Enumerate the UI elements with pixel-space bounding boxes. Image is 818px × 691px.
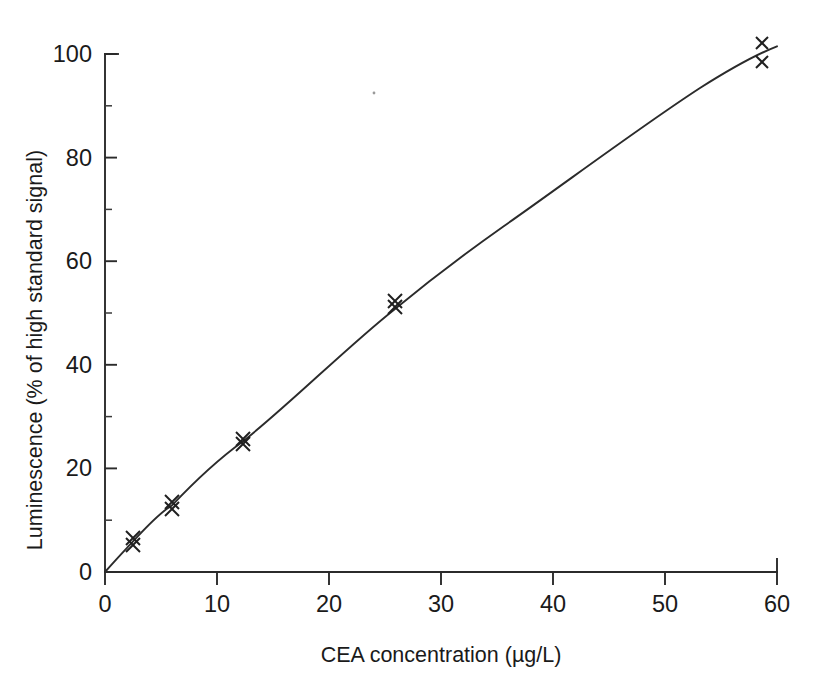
data-point-marker <box>126 531 140 545</box>
x-tick-label-10: 10 <box>204 591 230 617</box>
y-tick-label-100: 100 <box>53 41 92 67</box>
y-axis-title: Luminescence (% of high standard signal) <box>23 150 47 550</box>
axis-group <box>105 54 777 572</box>
x-tick-label-30: 30 <box>428 591 454 617</box>
x-axis-title: CEA concentration (µg/L) <box>321 643 562 667</box>
figure-container: 0 20 40 60 80 100 0 10 20 30 40 50 60 CE… <box>0 0 818 691</box>
y-tick-label-60: 60 <box>66 248 92 274</box>
y-tick-label-20: 20 <box>66 455 92 481</box>
data-point-marker <box>756 56 768 68</box>
x-tick-label-20: 20 <box>316 591 342 617</box>
y-tick-label-80: 80 <box>66 145 92 171</box>
data-point-markers <box>126 37 768 552</box>
x-tick-label-0: 0 <box>98 591 111 617</box>
calibration-curve-chart: 0 20 40 60 80 100 0 10 20 30 40 50 60 CE… <box>0 0 818 691</box>
y-axis-tick-labels: 0 20 40 60 80 100 <box>53 41 92 585</box>
scan-artifact-speck <box>373 92 376 95</box>
calibration-curve <box>105 46 777 572</box>
data-point-marker <box>756 37 768 49</box>
x-tick-label-60: 60 <box>764 591 790 617</box>
x-tick-label-40: 40 <box>540 591 566 617</box>
x-axis-major-ticks <box>105 572 777 585</box>
y-tick-label-0: 0 <box>79 559 92 585</box>
x-axis-tick-labels: 0 10 20 30 40 50 60 <box>98 591 790 617</box>
y-axis-minor-ticks <box>105 106 112 520</box>
x-tick-label-50: 50 <box>652 591 678 617</box>
y-tick-label-40: 40 <box>66 352 92 378</box>
data-point-marker <box>165 495 179 509</box>
